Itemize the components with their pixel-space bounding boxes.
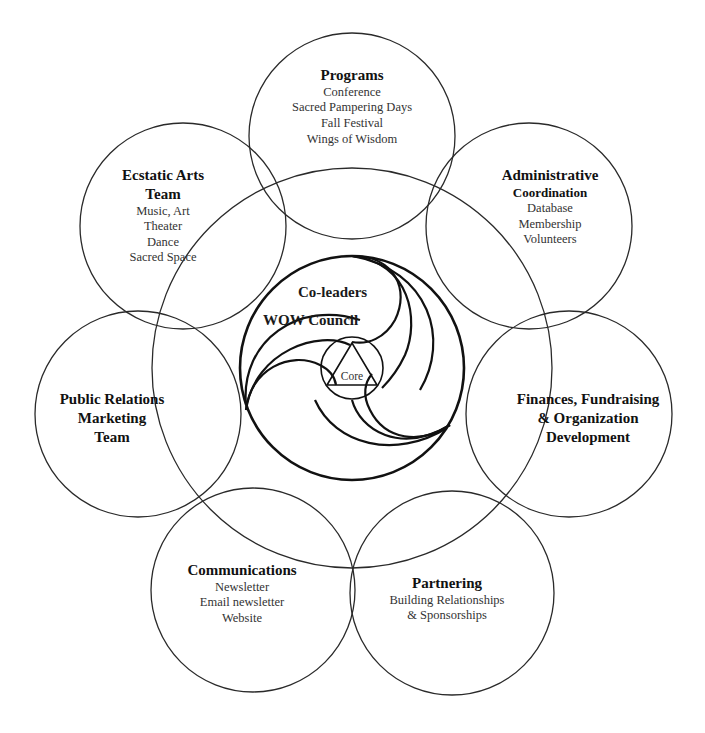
public-relations-title-3: Team <box>60 428 165 447</box>
administrative-title-2: Coordination <box>502 185 599 201</box>
programs-item: Fall Festival <box>292 116 412 132</box>
programs-title: Programs <box>292 66 412 85</box>
finances-title-2: & Organization <box>517 409 660 428</box>
ecstatic-arts-item: Music, Art <box>122 204 204 220</box>
communications-item: Website <box>187 611 296 627</box>
partnering-item: Building Relationships <box>390 593 505 609</box>
administrative-item: Volunteers <box>502 232 599 248</box>
partnering-title: Partnering <box>390 574 505 593</box>
core-circle <box>321 337 383 399</box>
partnering-label: Partnering Building Relationships & Spon… <box>390 574 505 624</box>
ecstatic-arts-label: Ecstatic Arts Team Music, Art Theater Da… <box>122 166 204 266</box>
outer-ring-circle <box>152 168 552 568</box>
public-relations-title-2: Marketing <box>60 409 165 428</box>
org-diagram: Co-leaders WOW Council Core Programs Con… <box>0 0 705 733</box>
ecstatic-arts-item: Theater <box>122 219 204 235</box>
administrative-title: Administrative <box>502 166 599 185</box>
ecstatic-arts-title-2: Team <box>122 185 204 204</box>
co-leaders-label: Co-leaders <box>298 284 367 301</box>
finances-label: Finances, Fundraising & Organization Dev… <box>517 390 660 446</box>
partnering-item: & Sponsorships <box>390 608 505 624</box>
programs-item: Wings of Wisdom <box>292 132 412 148</box>
ecstatic-arts-title: Ecstatic Arts <box>122 166 204 185</box>
communications-item: Newsletter <box>187 580 296 596</box>
public-relations-label: Public Relations Marketing Team <box>60 390 165 446</box>
programs-item: Conference <box>292 85 412 101</box>
administrative-item: Membership <box>502 217 599 233</box>
administrative-item: Database <box>502 201 599 217</box>
core-label: Core <box>341 370 363 382</box>
programs-item: Sacred Pampering Days <box>292 100 412 116</box>
administrative-label: Administrative Coordination Database Mem… <box>502 166 599 248</box>
finances-title-3: Development <box>517 428 660 447</box>
communications-item: Email newsletter <box>187 595 296 611</box>
ecstatic-arts-item: Sacred Space <box>122 250 204 266</box>
communications-label: Communications Newsletter Email newslett… <box>187 561 296 627</box>
wow-council-label: WOW Council <box>263 312 358 329</box>
public-relations-title: Public Relations <box>60 390 165 409</box>
finances-title: Finances, Fundraising <box>517 390 660 409</box>
ecstatic-arts-item: Dance <box>122 235 204 251</box>
programs-label: Programs Conference Sacred Pampering Day… <box>292 66 412 147</box>
communications-title: Communications <box>187 561 296 580</box>
